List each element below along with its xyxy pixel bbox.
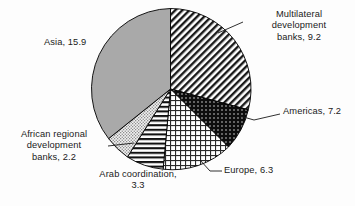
pie-label-line: Asia, 15.9 <box>44 37 116 48</box>
pie-label-americas: Americas, 7.2 <box>283 106 353 117</box>
pie-label-line: 3.3 <box>84 180 192 191</box>
pie-label-line: banks, 2.2 <box>2 152 106 163</box>
pie-label-line: Americas, 7.2 <box>283 106 353 117</box>
pie-label-asia: Asia, 15.9 <box>44 37 116 48</box>
pie-label-line: Arab coordination, <box>84 169 192 180</box>
pie-chart-figure: Multilateral development banks, 9.2 Amer… <box>0 0 355 206</box>
pie-label-arab-coordination: Arab coordination, 3.3 <box>84 169 192 192</box>
pie-label-african-regional-development-banks: African regional development banks, 2.2 <box>2 129 106 163</box>
pie-label-line: development <box>247 20 351 31</box>
pie-label-line: banks, 9.2 <box>247 32 351 43</box>
pie-label-line: Multilateral <box>247 9 351 20</box>
pie-label-line: African regional <box>2 129 106 140</box>
pie-label-multilateral-development-banks: Multilateral development banks, 9.2 <box>247 9 351 43</box>
pie-label-line: development <box>2 140 106 151</box>
pie-label-line: Europe, 6.3 <box>224 165 300 176</box>
pie-label-europe: Europe, 6.3 <box>224 165 300 176</box>
